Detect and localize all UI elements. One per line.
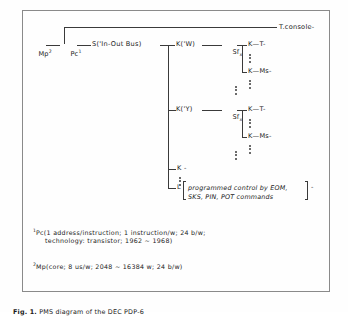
link-spine-l-node — [168, 188, 176, 189]
sfx2-tail-ellipsis — [249, 143, 251, 154]
sfx2-branch-ellipsis — [249, 117, 251, 128]
node-k-ms-1: K—Ms- — [248, 67, 272, 75]
link-mp-pc — [46, 45, 60, 46]
footnote-1-line-2: technology: transistor; 1962 ~ 1968) — [45, 236, 172, 245]
node-k-t-2: K—T- — [248, 105, 266, 113]
sfx2-fanout-bottom-stub — [242, 137, 247, 138]
node-switch-inout-bus: S('In-Out Bus) — [92, 40, 142, 48]
link-kw-sfx1 — [202, 45, 222, 46]
switch-main-spine — [168, 45, 169, 188]
spine-ellipsis-mid — [235, 149, 237, 160]
figure-caption-label: Fig. 1. — [13, 308, 37, 316]
footnote-2-text: Mp(core; 8 us/w; 2048 ~ 16384 w; 24 b/w) — [36, 263, 183, 270]
node-pc-base: Pc — [70, 50, 78, 58]
node-k-t-1: K—T- — [248, 40, 266, 48]
sfx1-fanout-top-stub — [242, 45, 247, 46]
link-pc-switch — [77, 45, 91, 46]
sfx2-fanout-top-stub — [242, 110, 247, 111]
link-spine-ky — [168, 110, 176, 111]
annotation-line-1: programmed control by EOM, — [188, 184, 288, 192]
spine-ellipsis-upper — [235, 84, 237, 95]
node-k-plain: K - — [177, 164, 187, 172]
figure-caption-body: PMS diagram of the DEC PDP-6 — [39, 308, 144, 316]
node-t-console: T.console- — [279, 23, 314, 31]
node-mp-superscript: 2 — [49, 49, 52, 54]
link-ky-sfx2 — [202, 110, 222, 111]
footnote-2-line-1: 2Mp(core; 8 us/w; 2048 ~ 16384 w; 24 b/w… — [33, 260, 183, 271]
sfx1-tail-ellipsis — [249, 78, 251, 89]
node-l: L — [177, 183, 181, 191]
node-pc-superscript: 1 — [79, 49, 82, 54]
sfx2-fanout-spine — [242, 110, 243, 137]
annotation-bracket-right — [305, 181, 308, 200]
figure-caption: Fig. 1. PMS diagram of the DEC PDP-6 — [4, 300, 144, 320]
annotation-bracket-left — [183, 181, 186, 200]
sfx1-branch-ellipsis — [249, 52, 251, 63]
sfx1-fanout-spine — [242, 45, 243, 72]
node-k-w: K('W) — [176, 40, 195, 48]
console-rail-line — [64, 27, 277, 28]
link-spine-k-plain — [168, 169, 176, 170]
annotation-trailing-dash: - — [311, 183, 314, 191]
annotation-line-2: SKS, PIN, POT commands — [188, 193, 273, 201]
node-k-y: K('Y) — [176, 105, 193, 113]
node-k-ms-2: K—Ms- — [248, 132, 272, 140]
node-mp-base: Mp — [38, 50, 48, 58]
sfx1-fanout-bottom-stub — [242, 72, 247, 73]
